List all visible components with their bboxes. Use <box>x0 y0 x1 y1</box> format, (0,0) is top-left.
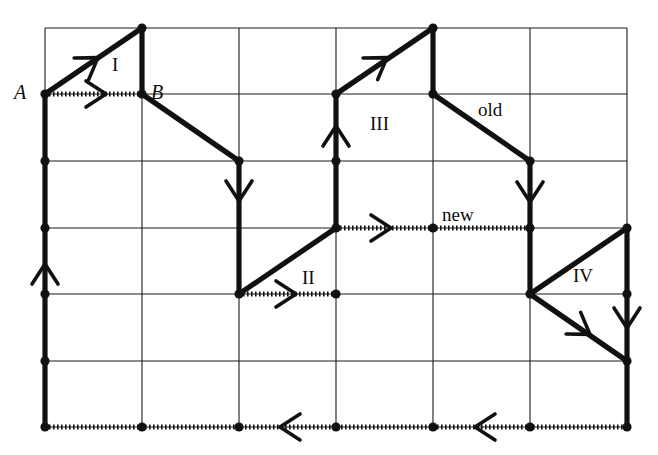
figure-canvas <box>0 0 658 455</box>
vertex-dot-19 <box>428 223 437 232</box>
vertex-dot-24 <box>525 422 534 431</box>
vertex-dot-10 <box>234 289 243 298</box>
label-old: old <box>478 100 502 119</box>
vertex-dot-20 <box>428 422 437 431</box>
vertex-dot-1 <box>40 156 49 165</box>
label-i: I <box>112 55 118 74</box>
vertex-dot-7 <box>137 89 146 98</box>
vertex-dot-6 <box>137 23 146 32</box>
vertex-dot-2 <box>40 223 49 232</box>
vertex-dot-14 <box>331 223 340 232</box>
vertex-dot-4 <box>40 356 49 365</box>
vertex-dot-27 <box>622 356 631 365</box>
vertex-dot-3 <box>40 289 49 298</box>
label-iii: III <box>370 114 389 133</box>
vertex-dot-26 <box>622 289 631 298</box>
vertex-dot-28 <box>622 422 631 431</box>
label-iv: IV <box>573 266 593 285</box>
label-b: B <box>151 82 163 102</box>
vertex-dot-0 <box>40 89 49 98</box>
vertex-dot-5 <box>40 422 49 431</box>
vertex-dot-12 <box>331 89 340 98</box>
lattice-path-figure: ABIIIIIIIVoldnew <box>0 0 658 455</box>
triangle-II-hypotenuse <box>239 228 336 294</box>
vertex-dot-18 <box>428 89 437 98</box>
label-new: new <box>442 205 474 224</box>
IV-lower-diagonal <box>530 294 627 361</box>
vertex-dot-25 <box>622 223 631 232</box>
B-to-down-right-diagonal <box>142 94 239 161</box>
vertex-dot-23 <box>525 289 534 298</box>
vertex-dot-15 <box>331 289 340 298</box>
vertex-dot-11 <box>234 422 243 431</box>
vertex-dot-13 <box>331 156 340 165</box>
vertex-dot-22 <box>525 223 534 232</box>
vertex-dot-17 <box>428 23 437 32</box>
vertex-dot-9 <box>234 156 243 165</box>
label-a: A <box>14 82 26 102</box>
vertex-dot-21 <box>525 156 534 165</box>
vertex-dot-8 <box>137 422 146 431</box>
vertex-dot-16 <box>331 422 340 431</box>
label-ii: II <box>302 268 315 287</box>
